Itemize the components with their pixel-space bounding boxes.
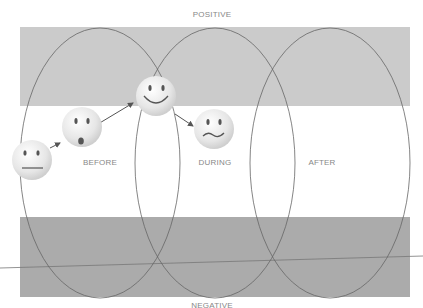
phase-label-during: DURING xyxy=(193,158,237,167)
negative-band xyxy=(20,217,410,297)
phase-label-before: BEFORE xyxy=(80,158,120,167)
uneasy-face-icon xyxy=(194,109,234,149)
arrow-1 xyxy=(50,143,60,148)
happy-face-icon xyxy=(136,76,176,116)
phase-label-after: AFTER xyxy=(302,158,342,167)
surprised-face-icon xyxy=(62,107,102,147)
negative-label: NEGATIVE xyxy=(180,301,244,308)
neutral-face-icon xyxy=(12,140,52,180)
positive-band xyxy=(20,27,410,106)
arrow-3 xyxy=(175,114,193,126)
journey-diagram xyxy=(0,0,423,308)
arrow-2 xyxy=(98,103,133,124)
